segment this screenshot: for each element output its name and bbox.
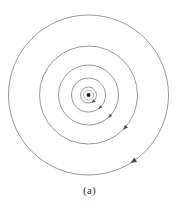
figure-caption: (a): [0, 183, 179, 197]
arrowheads-layer: [92, 99, 137, 162]
center-point-marker: [87, 93, 91, 97]
center-marker-layer: [87, 93, 91, 97]
concentric-orbit-diagram: [0, 0, 179, 186]
direction-arrowhead-icon: [131, 158, 137, 163]
figure-container: (a): [0, 0, 179, 210]
